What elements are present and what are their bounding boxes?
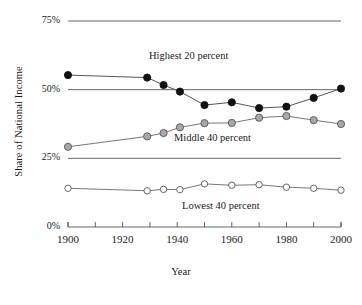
series-label: Highest 20 percent <box>149 50 228 61</box>
data-point-marker <box>160 129 167 136</box>
y-tick-label: 50% <box>16 83 60 94</box>
data-point-marker <box>144 188 150 194</box>
data-point-marker <box>310 117 317 124</box>
x-tick-label: 1960 <box>207 233 257 245</box>
x-tick-label: 1980 <box>261 233 311 245</box>
data-point-marker <box>228 119 235 126</box>
income-share-chart: Share of National Income 0%25%50%75% 190… <box>0 0 362 305</box>
x-tick-label: 1920 <box>98 233 148 245</box>
y-tick-label: 75% <box>16 14 60 25</box>
series-label: Lowest 40 percent <box>182 200 260 211</box>
y-tick-label: 25% <box>16 151 60 162</box>
x-tick-label: 1940 <box>152 233 202 245</box>
data-point-marker <box>160 81 167 88</box>
data-point-marker <box>338 187 344 193</box>
data-point-marker <box>201 101 208 108</box>
y-tick-label: 0% <box>16 220 60 231</box>
data-point-marker <box>337 85 344 92</box>
data-point-marker <box>144 74 151 81</box>
data-point-marker <box>283 103 290 110</box>
x-axis-title: Year <box>0 266 362 277</box>
data-point-marker <box>256 182 262 188</box>
data-point-marker <box>283 112 290 119</box>
data-point-marker <box>176 124 183 131</box>
data-point-marker <box>177 186 183 192</box>
series-label: Middle 40 percent <box>174 132 251 143</box>
data-point-marker <box>160 186 166 192</box>
data-point-marker <box>311 185 317 191</box>
x-axis <box>68 222 341 227</box>
data-point-marker <box>64 72 71 79</box>
x-tick-label: 1900 <box>43 233 93 245</box>
data-point-marker <box>201 181 207 187</box>
data-point-marker <box>144 133 151 140</box>
data-point-marker <box>256 114 263 121</box>
data-point-marker <box>176 88 183 95</box>
data-point-marker <box>64 143 71 150</box>
data-point-marker <box>201 120 208 127</box>
data-point-marker <box>256 104 263 111</box>
data-point-marker <box>337 120 344 127</box>
x-tick-label: 2000 <box>316 233 362 245</box>
data-point-marker <box>65 185 71 191</box>
data-point-marker <box>310 94 317 101</box>
data-point-marker <box>283 184 289 190</box>
data-point-marker <box>228 99 235 106</box>
data-point-marker <box>229 182 235 188</box>
